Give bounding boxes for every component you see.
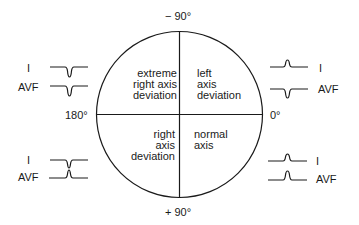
quadrant-right-axis-deviation: right axis deviation: [120, 129, 175, 162]
waveform-bl-lead2: [49, 170, 88, 178]
lead-label-bl-avf: AVF: [18, 172, 39, 183]
lead-label-tl-i: I: [27, 63, 30, 74]
quadrant-text-line: deviation: [120, 151, 175, 162]
lead-label-tl-avf: AVF: [18, 82, 39, 93]
label-0: 0°: [270, 110, 281, 121]
quadrant-text-line: deviation: [120, 90, 177, 101]
label-180: 180°: [65, 110, 88, 121]
lead-label-tr-i: I: [319, 63, 322, 74]
waveform-br-lead2: [268, 171, 307, 180]
waveform-tr-lead2: [270, 89, 308, 98]
label-plus-90: + 90°: [165, 207, 191, 218]
lead-label-br-avf: AVF: [316, 174, 337, 185]
label-minus-90: − 90°: [165, 11, 191, 22]
lead-label-br-i: I: [316, 156, 319, 167]
lead-label-tr-avf: AVF: [318, 84, 339, 95]
quadrant-normal-axis: normal axis: [194, 129, 228, 151]
quadrant-text-line: deviation: [197, 90, 241, 101]
waveform-br-lead1: [268, 154, 307, 161]
waveform-tr-lead1: [270, 60, 308, 67]
waveform-tl-lead1: [50, 67, 88, 77]
quadrant-extreme-right-axis-deviation: extreme right axis deviation: [120, 68, 177, 101]
quadrant-text-line: axis: [194, 140, 228, 151]
axis-diagram: [0, 0, 359, 225]
waveform-bl-lead1: [50, 160, 88, 168]
quadrant-left-axis-deviation: left axis deviation: [197, 68, 241, 101]
waveform-tl-lead2: [50, 86, 88, 96]
lead-label-bl-i: I: [27, 155, 30, 166]
